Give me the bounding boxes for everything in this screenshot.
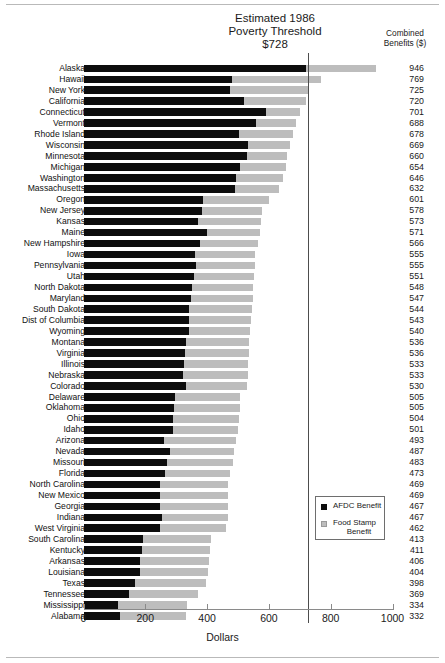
- stacked-bar: [84, 185, 279, 193]
- food-stamp-bar-segment: [239, 130, 293, 138]
- afdc-bar-segment: [84, 86, 230, 94]
- food-stamp-swatch-icon: [321, 521, 327, 527]
- chart-row: Montana536: [0, 337, 445, 348]
- stacked-bar: [84, 415, 240, 423]
- state-label: Michigan: [0, 162, 85, 173]
- chart-row: Massachusetts632: [0, 183, 445, 194]
- state-label: Utah: [0, 271, 85, 282]
- chart-row: Hawaii769: [0, 74, 445, 85]
- state-label: Louisiana: [0, 567, 85, 578]
- stacked-bar: [84, 470, 230, 478]
- food-stamp-bar-segment: [129, 590, 198, 598]
- afdc-bar-segment: [84, 185, 236, 193]
- food-stamp-bar-segment: [247, 152, 288, 160]
- chart-row: New Jersey578: [0, 205, 445, 216]
- stacked-bar: [84, 590, 198, 598]
- stacked-bar: [84, 76, 322, 84]
- stacked-bar: [84, 196, 270, 204]
- combined-benefit-value: 544: [384, 304, 424, 315]
- afdc-bar-segment: [84, 76, 233, 84]
- combined-benefit-value: 536: [384, 348, 424, 359]
- food-stamp-bar-segment: [230, 86, 308, 94]
- afdc-bar-segment: [84, 174, 236, 182]
- afdc-bar-segment: [84, 152, 247, 160]
- stacked-bar: [84, 448, 234, 456]
- afdc-bar-segment: [84, 492, 161, 500]
- afdc-bar-segment: [84, 459, 167, 467]
- chart-row: Kentucky411: [0, 545, 445, 556]
- chart-row: Maryland547: [0, 293, 445, 304]
- food-stamp-bar-segment: [160, 503, 228, 511]
- food-stamp-bar-segment: [189, 316, 251, 324]
- stacked-bar: [84, 284, 253, 292]
- afdc-bar-segment: [84, 415, 174, 423]
- afdc-bar-segment: [84, 382, 187, 390]
- state-label: Illinois: [0, 359, 85, 370]
- x-axis-tick: [331, 604, 332, 609]
- legend-label-afdc: AFDC Benefit: [333, 501, 385, 510]
- afdc-bar-segment: [84, 229, 208, 237]
- stacked-bar: [84, 163, 286, 171]
- stacked-bar: [84, 262, 255, 270]
- chart-row: Missouri483: [0, 457, 445, 468]
- afdc-bar-segment: [84, 141, 249, 149]
- state-label: Vermont: [0, 118, 85, 129]
- afdc-bar-segment: [84, 97, 244, 105]
- state-label: Florida: [0, 468, 85, 479]
- afdc-bar-segment: [84, 316, 190, 324]
- combined-benefit-value: 566: [384, 238, 424, 249]
- food-stamp-bar-segment: [240, 163, 285, 171]
- chart-row: Minnesota660: [0, 151, 445, 162]
- chart-row: Arkansas406: [0, 556, 445, 567]
- stacked-bar: [84, 393, 240, 401]
- x-axis-tick-label: 200: [120, 612, 170, 624]
- chart-row: Dist of Columbia543: [0, 315, 445, 326]
- x-axis-tick: [207, 604, 208, 609]
- stacked-bar: [84, 207, 263, 215]
- afdc-bar-segment: [84, 163, 241, 171]
- stacked-bar: [84, 557, 209, 565]
- food-stamp-bar-segment: [173, 415, 239, 423]
- chart-row: Colorado530: [0, 381, 445, 392]
- afdc-bar-segment: [84, 426, 174, 434]
- state-label: North Carolina: [0, 479, 85, 490]
- combined-benefit-value: 720: [384, 96, 424, 107]
- combined-benefit-value: 632: [384, 183, 424, 194]
- poverty-benefits-chart-figure: Estimated 1986 Poverty Threshold $728 Co…: [0, 0, 445, 663]
- combined-benefit-value: 469: [384, 479, 424, 490]
- state-label: Tennessee: [0, 589, 85, 600]
- food-stamp-bar-segment: [142, 546, 211, 554]
- chart-row: Florida473: [0, 468, 445, 479]
- combined-benefit-value: 406: [384, 556, 424, 567]
- combined-benefit-value: 573: [384, 216, 424, 227]
- state-label: Georgia: [0, 501, 85, 512]
- state-label: Washington: [0, 173, 85, 184]
- stacked-bar: [84, 97, 306, 105]
- afdc-bar-segment: [84, 437, 165, 445]
- food-stamp-bar-segment: [183, 371, 248, 379]
- x-axis-tick-label: 600: [244, 612, 294, 624]
- chart-row: Vermont688: [0, 118, 445, 129]
- stacked-bar: [84, 503, 228, 511]
- chart-row: Oregon601: [0, 194, 445, 205]
- stacked-bar: [84, 130, 294, 138]
- combined-benefit-value: 533: [384, 370, 424, 381]
- state-label: Virginia: [0, 348, 85, 359]
- stacked-bar: [84, 152, 288, 160]
- stacked-bar: [84, 601, 187, 609]
- afdc-bar-segment: [84, 371, 184, 379]
- combined-benefit-value: 601: [384, 194, 424, 205]
- combined-benefit-value: 678: [384, 129, 424, 140]
- food-stamp-bar-segment: [174, 404, 240, 412]
- combined-benefit-value: 548: [384, 282, 424, 293]
- stacked-bar: [84, 251, 255, 259]
- food-stamp-bar-segment: [202, 207, 262, 215]
- chart-row: Rhode Island678: [0, 129, 445, 140]
- combined-benefit-value: 669: [384, 140, 424, 151]
- state-label: Pennsylvania: [0, 260, 85, 271]
- food-stamp-bar-segment: [189, 327, 251, 335]
- afdc-bar-segment: [84, 130, 239, 138]
- afdc-bar-segment: [84, 240, 201, 248]
- food-stamp-bar-segment: [135, 579, 206, 587]
- state-label: Hawaii: [0, 74, 85, 85]
